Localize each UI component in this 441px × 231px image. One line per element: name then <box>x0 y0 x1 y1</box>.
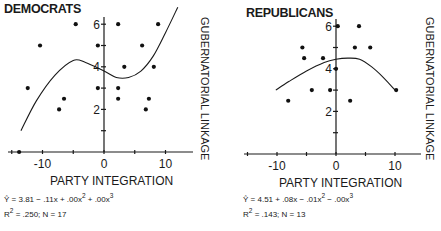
data-point <box>17 150 21 154</box>
chart-title: DEMOCRATS <box>4 2 81 16</box>
data-point <box>286 99 290 103</box>
data-point <box>300 45 304 49</box>
data-point <box>74 22 78 26</box>
data-point <box>26 86 30 90</box>
figure: DEMOCRATS -10010246 PARTY INTEGRATION GU… <box>0 0 441 231</box>
data-points <box>17 22 160 154</box>
data-point <box>116 86 120 90</box>
x-tick-label: -10 <box>34 157 52 171</box>
chart-title: REPUBLICANS <box>246 6 333 20</box>
y-axis-label: GUBERNATORIAL LINKAGE <box>424 17 436 160</box>
data-point <box>394 88 398 92</box>
axes <box>244 19 421 156</box>
democrats-panel: DEMOCRATS -10010246 PARTY INTEGRATION GU… <box>4 2 211 219</box>
data-point <box>302 56 306 60</box>
tick-labels: -10010246 <box>268 20 402 173</box>
data-point <box>96 86 100 90</box>
data-point <box>353 45 357 49</box>
data-point <box>116 97 120 101</box>
x-tick-label: -10 <box>268 159 286 173</box>
data-point <box>357 24 361 28</box>
data-point <box>156 22 160 26</box>
data-points <box>286 24 398 103</box>
data-point <box>328 88 332 92</box>
y-tick-label: 2 <box>93 103 100 117</box>
data-point <box>368 45 372 49</box>
data-point <box>62 97 66 101</box>
x-tick-label: 0 <box>101 157 108 171</box>
regression-equation: Ŷ = 3.81 − .11x + .00x2 + .00x3 <box>4 192 114 204</box>
data-point <box>334 67 338 71</box>
x-tick-label: 10 <box>388 159 402 173</box>
y-tick-label: 2 <box>325 105 332 119</box>
data-point <box>147 97 151 101</box>
data-point <box>57 107 61 111</box>
x-tick-label: 0 <box>333 159 340 173</box>
data-point <box>116 22 120 26</box>
x-tick-label: 10 <box>159 157 173 171</box>
data-point <box>321 56 325 60</box>
data-point <box>122 65 126 69</box>
fit-statistics: R2 = .143; N = 13 <box>243 207 306 219</box>
data-point <box>38 43 42 47</box>
x-axis-label: PARTY INTEGRATION <box>50 174 173 188</box>
y-tick-label: 4 <box>325 62 332 76</box>
tick-labels: -10010246 <box>34 18 173 171</box>
republicans-panel: REPUBLICANS -10010246 PARTY INTEGRATION … <box>243 6 436 219</box>
fit-statistics: R2 = .250; N = 17 <box>4 207 67 219</box>
y-tick-label: 6 <box>93 18 100 32</box>
y-axis-label: GUBERNATORIAL LINKAGE <box>199 17 211 160</box>
data-point <box>310 88 314 92</box>
data-point <box>152 65 156 69</box>
axes <box>8 17 193 154</box>
y-tick-label: 6 <box>325 20 332 34</box>
data-point <box>336 24 340 28</box>
data-point <box>144 107 148 111</box>
data-point <box>96 43 100 47</box>
regression-equation: Ŷ = 4.51 + .08x − .01x2 − .00x3 <box>243 192 353 204</box>
data-point <box>348 99 352 103</box>
x-axis-label: PARTY INTEGRATION <box>279 176 402 190</box>
data-point <box>140 43 144 47</box>
